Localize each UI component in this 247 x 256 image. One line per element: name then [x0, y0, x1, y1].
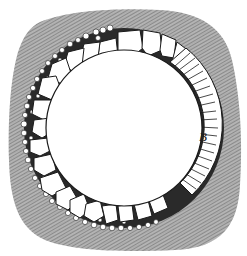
label-b: B — [199, 129, 207, 145]
shaft-opening — [46, 50, 202, 206]
shaft-cross-section-figure — [0, 0, 247, 256]
